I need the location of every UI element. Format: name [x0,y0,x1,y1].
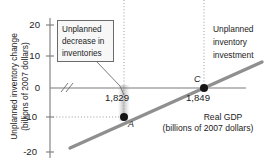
y-tick-label-10: 10 [14,50,40,61]
x-axis-title: Real GDP (billions of 2007 dollars) [150,112,266,134]
unplanned-decrease-callout: Unplanned decrease in inventories [57,20,114,62]
y-tick-label-0: 0 [14,82,40,93]
right-note-line2: inventory [213,36,254,49]
data-point-a [120,113,128,121]
data-point-c [200,84,208,92]
x-value-label-1829: 1,829 [105,92,129,103]
right-note-line1: Unplanned [213,23,254,36]
point-label-a: A [128,119,134,129]
y-tick-label-minus20: -20 [11,146,37,157]
y-tick-label-20: 20 [14,19,40,30]
y-tick-label-minus10: -10 [11,111,37,122]
x-value-label-1849: 1,849 [186,92,210,103]
callout-line2: decrease in [62,36,110,48]
x-axis-title-line1: Real GDP [150,112,266,123]
point-label-c: C [194,74,201,84]
inventory-investment-line [70,62,262,148]
inventory-investment-chart: Unplanned inventory change (billions of … [0,0,266,164]
x-axis-title-line2: (billions of 2007 dollars) [150,123,266,134]
callout-line3: inventories [62,48,110,60]
right-note-line3: investment [213,49,254,62]
callout-line1: Unplanned [62,24,110,36]
unplanned-inventory-investment-note: Unplanned inventory investment [213,23,254,62]
